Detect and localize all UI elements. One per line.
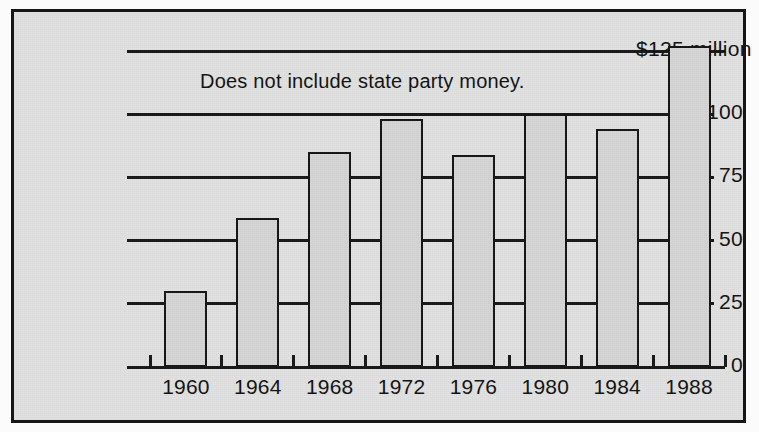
x-axis-label-1968: 1968 [294, 375, 366, 399]
bar-1960 [164, 291, 207, 367]
bar-1980 [524, 114, 567, 367]
bar-1964 [236, 218, 279, 367]
x-axis-tick-1964 [292, 355, 295, 367]
x-axis-tick-1976 [508, 355, 511, 367]
chart-panel: 0255075100$125 million196019641968197219… [11, 9, 746, 423]
bar-1976 [452, 155, 495, 367]
bar-1968 [308, 152, 351, 367]
x-axis-tick-origin [149, 355, 152, 367]
x-axis-tick-1972 [436, 355, 439, 367]
x-axis-label-1964: 1964 [222, 375, 294, 399]
x-axis-tick-1984 [652, 355, 655, 367]
chart-figure: 0255075100$125 million196019641968197219… [0, 0, 759, 432]
x-axis-label-1980: 1980 [509, 375, 581, 399]
chart-annotation: Does not include state party money. [200, 70, 525, 93]
gridline-100 [127, 113, 714, 116]
x-axis-label-1988: 1988 [653, 375, 725, 399]
bar-1984 [596, 129, 639, 367]
bar-1972 [380, 119, 423, 367]
bar-1988 [668, 46, 711, 367]
plot-area: 0255075100$125 million196019641968197219… [14, 12, 743, 420]
x-axis-tick-1988 [724, 355, 727, 367]
x-axis-tick-1980 [580, 355, 583, 367]
x-axis-tick-1960 [220, 355, 223, 367]
x-axis-label-1972: 1972 [366, 375, 438, 399]
x-axis-label-1984: 1984 [581, 375, 653, 399]
x-axis-tick-1968 [364, 355, 367, 367]
x-axis-label-1960: 1960 [150, 375, 222, 399]
x-axis-label-1976: 1976 [438, 375, 510, 399]
